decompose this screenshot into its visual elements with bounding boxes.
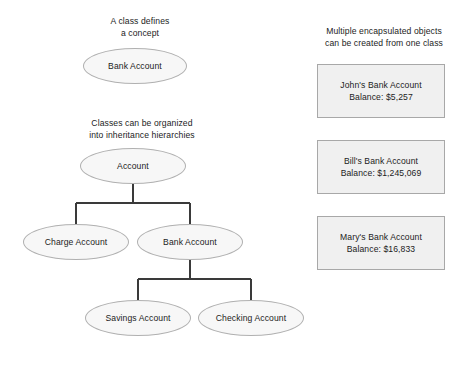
object-box-title: Bill's Bank Account: [344, 155, 418, 167]
hierarchy-node-label: Bank Account: [163, 237, 217, 247]
class-node-label: Bank Account: [108, 61, 162, 71]
caption-multiple-encapsulated-objects: Multiple encapsulated objects can be cre…: [310, 26, 458, 49]
hierarchy-node-label: Account: [117, 161, 149, 171]
object-box-title: Mary's Bank Account: [340, 231, 422, 243]
hierarchy-node-checking-account[interactable]: Checking Account: [198, 300, 304, 336]
caption-class-defines-concept: A class defines a concept: [80, 16, 200, 39]
diagram-canvas: A class defines a concept Bank Account C…: [0, 0, 464, 366]
object-box-bills-bank-account[interactable]: Bill's Bank Account Balance: $1,245,069: [317, 140, 445, 194]
caption-inheritance-hierarchies: Classes can be organized into inheritanc…: [67, 118, 217, 141]
hierarchy-node-savings-account[interactable]: Savings Account: [85, 300, 191, 336]
object-box-balance: Balance: $1,245,069: [341, 167, 422, 179]
hierarchy-node-bank-account[interactable]: Bank Account: [137, 224, 243, 260]
object-box-balance: Balance: $16,833: [347, 243, 416, 255]
hierarchy-node-label: Charge Account: [45, 237, 108, 247]
object-box-marys-bank-account[interactable]: Mary's Bank Account Balance: $16,833: [317, 216, 445, 270]
class-node-bank-account[interactable]: Bank Account: [83, 48, 187, 84]
hierarchy-node-account[interactable]: Account: [80, 148, 186, 184]
object-box-johns-bank-account[interactable]: John's Bank Account Balance: $5,257: [317, 64, 445, 118]
hierarchy-node-label: Savings Account: [105, 313, 170, 323]
object-box-title: John's Bank Account: [340, 79, 421, 91]
hierarchy-node-label: Checking Account: [216, 313, 286, 323]
object-box-balance: Balance: $5,257: [349, 91, 413, 103]
hierarchy-node-charge-account[interactable]: Charge Account: [23, 224, 129, 260]
